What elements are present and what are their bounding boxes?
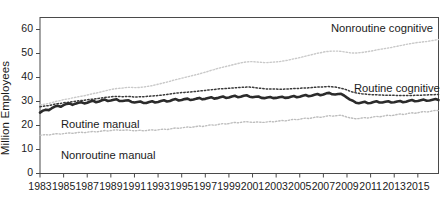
series-label-nonroutine-cognitive: Nonroutine cognitive [331,22,433,34]
series-label-routine-manual: Routine manual [61,118,139,130]
y-axis-tick-label: 0 [0,166,33,178]
employment-trend-chart: Million Employees 0102030405060198319851… [0,0,446,215]
y-axis-tick-label: 50 [0,46,33,58]
y-axis-tick-label: 60 [0,22,33,34]
y-axis-tick-label: 20 [0,118,33,130]
series-label-nonroutine-manual: Nonroutine manual [61,149,156,161]
series-label-routine-cognitive: Routine cognitive [354,82,440,94]
x-axis-tick-label: 2015 [401,180,435,192]
y-axis-tick-label: 40 [0,70,33,82]
y-axis-tick-label: 30 [0,94,33,106]
y-axis-tick-label: 10 [0,142,33,154]
